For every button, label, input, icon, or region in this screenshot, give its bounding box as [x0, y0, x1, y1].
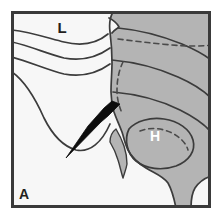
anatomical-diagram: L H A: [0, 0, 223, 219]
figure-panel: L H A: [0, 0, 223, 219]
lung-label: L: [57, 19, 66, 36]
liver-label: H: [150, 128, 160, 144]
panel-label: A: [19, 186, 29, 202]
